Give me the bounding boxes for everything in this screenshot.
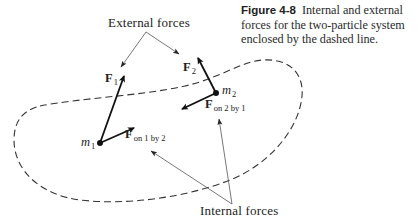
m2-symbol: m bbox=[222, 83, 231, 97]
F1-subscript: 1 bbox=[114, 77, 118, 87]
force-vector-F1 bbox=[100, 76, 124, 143]
external-forces-pointers bbox=[121, 32, 179, 67]
F1-label: F1 bbox=[105, 71, 118, 86]
F2-symbol: F bbox=[183, 60, 191, 74]
F2-subscript: 2 bbox=[192, 66, 196, 76]
F-on-1-by-2-subscript: on 1 by 2 bbox=[134, 133, 166, 143]
figure-number: Figure 4-8 bbox=[241, 4, 296, 16]
particle-m2-dot bbox=[213, 90, 219, 96]
m1-label: m1 bbox=[81, 135, 95, 150]
F1-symbol: F bbox=[105, 71, 113, 85]
F2-label: F2 bbox=[183, 60, 196, 75]
particle-m1-dot bbox=[97, 140, 103, 146]
m1-symbol: m bbox=[81, 135, 90, 149]
F-on-2-by-1-label: Fon 2 by 1 bbox=[205, 97, 246, 112]
F-on-1-by-2-label: Fon 1 by 2 bbox=[125, 127, 166, 142]
m2-subscript: 2 bbox=[232, 89, 236, 99]
internal-forces-label: Internal forces bbox=[200, 203, 278, 219]
F-on-1-by-2-symbol: F bbox=[125, 127, 133, 141]
m2-label: m2 bbox=[222, 83, 236, 98]
external-forces-label: External forces bbox=[108, 15, 190, 31]
m1-subscript: 1 bbox=[91, 141, 95, 151]
F-on-2-by-1-symbol: F bbox=[205, 97, 213, 111]
figure-caption: Figure 4-8Internal and external forces f… bbox=[241, 3, 418, 47]
force-vector-F2 bbox=[198, 58, 216, 93]
F-on-2-by-1-subscript: on 2 by 1 bbox=[214, 103, 246, 113]
